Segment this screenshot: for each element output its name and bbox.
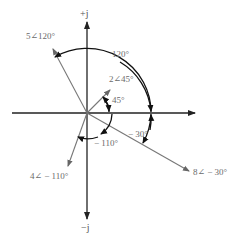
phasor-5-120 (53, 49, 87, 113)
phasor-8-neg30-label: 8∠ − 30° (193, 168, 227, 177)
phasor-5-120-label: 5∠120° (26, 32, 55, 41)
angle-120-label: 120° (112, 50, 129, 59)
angle-45-label: 45° (112, 96, 125, 105)
arc-45 (103, 97, 109, 112)
positive-imag-axis-label: +j (80, 9, 88, 19)
phasor-2-45-label: 2∠45° (109, 75, 134, 84)
phasor-4-neg110-label: 4∠ − 110° (30, 172, 68, 181)
negative-imag-axis-label: −j (81, 223, 89, 233)
angle-neg30-label: − 30° (128, 130, 148, 139)
phasor-4-neg110 (68, 113, 87, 166)
angle-neg110-label: − 110° (94, 139, 118, 148)
